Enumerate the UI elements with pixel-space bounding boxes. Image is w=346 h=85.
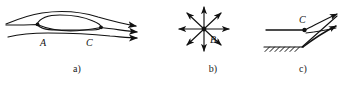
caption-panel-c: c) [283,63,323,74]
saddle-point-c [302,28,306,32]
label-point-a: A [40,37,46,48]
streamline-lower-outer [8,33,137,38]
label-point-c-panel-c: C [299,14,306,25]
panel-a-streamlines [6,12,137,38]
saddle-point-a [36,22,40,26]
arrow-southwest [187,29,204,45]
figure-container: A C B C a) b) c) [0,0,346,85]
caption-panel-b: b) [193,63,233,74]
arrow-northeast [204,13,221,29]
outer-streamline-lower [306,28,336,33]
streamline-middle [6,25,137,33]
arrow-northwest [187,13,204,29]
node-point-c-bubble [99,25,103,29]
node-point-b [202,27,207,32]
label-point-c-panel-a: C [86,37,93,48]
panel-b-radial-node [179,7,229,51]
caption-panel-a: a) [57,63,97,74]
streamline-upper-outer [6,12,136,26]
wall-hatching [265,47,300,52]
label-point-b: B [210,34,216,45]
